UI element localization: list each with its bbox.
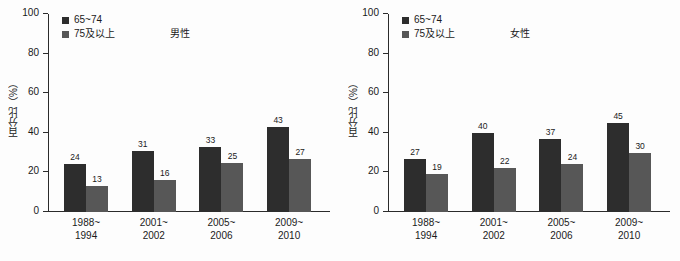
y-tick-label-40: 40: [28, 125, 39, 138]
bar[interactable]: 37: [539, 139, 561, 212]
bar-slot: 24: [561, 14, 583, 212]
y-tick-label-100: 100: [362, 6, 379, 19]
bar[interactable]: 45: [607, 123, 629, 212]
bar-slot: 19: [426, 14, 448, 212]
bar-value-label: 27: [404, 147, 426, 157]
x-axis-tick-label: 2009~2010: [249, 216, 329, 242]
bar-group: 4327: [266, 14, 312, 212]
x-axis-tick-label: 2009~2010: [589, 216, 669, 242]
bar-slot: 45: [607, 14, 629, 212]
bar[interactable]: 27: [404, 159, 426, 212]
bar-slot: 13: [86, 14, 108, 212]
bar-group: 4530: [606, 14, 652, 212]
bar-value-label: 24: [561, 152, 583, 162]
bar-value-label: 37: [539, 127, 561, 137]
bar[interactable]: 24: [561, 164, 583, 212]
bar-group: 3724: [538, 14, 584, 212]
bar-value-label: 19: [426, 162, 448, 172]
bar-slot: 25: [221, 14, 243, 212]
bar-slot: 24: [64, 14, 86, 212]
bar-group: 2413: [63, 14, 109, 212]
bar-value-label: 27: [289, 147, 311, 157]
y-tick-label-20: 20: [28, 164, 39, 177]
bar-value-label: 40: [472, 121, 494, 131]
y-tick-label-80: 80: [28, 46, 39, 59]
bar-groups-female: 2719402237244530: [388, 14, 670, 212]
y-tick-label-20: 20: [368, 164, 379, 177]
figure-two-panel-bar-charts: 百分比（%） 65~74 75及以上 男性 0 20 40: [0, 0, 680, 261]
bar-slot: 31: [132, 14, 154, 212]
bar-slot: 43: [267, 14, 289, 212]
bar-value-label: 22: [494, 156, 516, 166]
bar-value-label: 16: [154, 168, 176, 178]
bar-group: 4022: [471, 14, 517, 212]
bar-group: 3116: [131, 14, 177, 212]
bar-value-label: 33: [199, 135, 221, 145]
bar[interactable]: 30: [629, 153, 651, 212]
bar[interactable]: 22: [494, 168, 516, 212]
y-axis-label-male: 百分比（%）: [8, 78, 22, 137]
x-axis-labels-male: 1988~19942001~20022005~20062009~2010: [48, 212, 330, 246]
bar-value-label: 31: [132, 139, 154, 149]
bar-value-label: 25: [221, 151, 243, 161]
y-tick-label-60: 60: [368, 85, 379, 98]
bar-value-label: 43: [267, 115, 289, 125]
chart-panel-female: 百分比（%） 65~74 75及以上 女性 0 20 40: [340, 0, 680, 261]
bar-value-label: 13: [86, 174, 108, 184]
bar-groups-male: 2413311633254327: [48, 14, 330, 212]
y-axis-label-female: 百分比（%）: [348, 78, 362, 137]
bar[interactable]: 16: [154, 180, 176, 212]
bar[interactable]: 31: [132, 151, 154, 212]
y-tick-label-80: 80: [368, 46, 379, 59]
bar-slot: 37: [539, 14, 561, 212]
bar-slot: 27: [289, 14, 311, 212]
bar-slot: 27: [404, 14, 426, 212]
bar-value-label: 45: [607, 111, 629, 121]
bar-slot: 22: [494, 14, 516, 212]
y-tick-label-100: 100: [22, 6, 39, 19]
y-tick-label-40: 40: [368, 125, 379, 138]
bar[interactable]: 43: [267, 127, 289, 212]
bar[interactable]: 40: [472, 133, 494, 212]
bar[interactable]: 19: [426, 174, 448, 212]
plot-area-male: 0 20 40 60 80 100 2413311633254327 1988~…: [48, 14, 330, 212]
bar[interactable]: 25: [221, 163, 243, 213]
bar-group: 2719: [403, 14, 449, 212]
bar-slot: 30: [629, 14, 651, 212]
bar-value-label: 30: [629, 141, 651, 151]
y-tick-label-0: 0: [373, 204, 379, 217]
bar[interactable]: 24: [64, 164, 86, 212]
bar-value-label: 24: [64, 152, 86, 162]
bar-slot: 33: [199, 14, 221, 212]
bar[interactable]: 33: [199, 147, 221, 212]
bar-slot: 40: [472, 14, 494, 212]
chart-panel-male: 百分比（%） 65~74 75及以上 男性 0 20 40: [0, 0, 340, 261]
y-tick-label-0: 0: [33, 204, 39, 217]
bar[interactable]: 27: [289, 159, 311, 212]
bar-slot: 16: [154, 14, 176, 212]
bar[interactable]: 13: [86, 186, 108, 212]
x-axis-labels-female: 1988~19942001~20022005~20062009~2010: [388, 212, 670, 246]
plot-area-female: 0 20 40 60 80 100 2719402237244530 1988~…: [388, 14, 670, 212]
y-tick-label-60: 60: [28, 85, 39, 98]
bar-group: 3325: [198, 14, 244, 212]
